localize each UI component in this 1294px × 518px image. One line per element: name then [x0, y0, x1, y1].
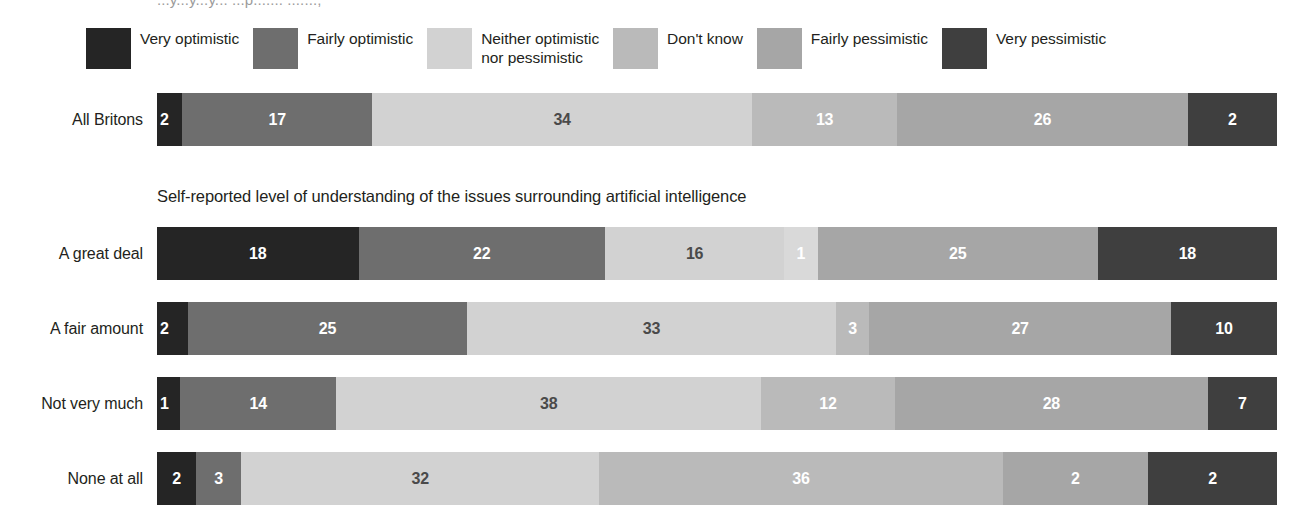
legend-item-neither[interactable]: Neither optimistic nor pessimistic: [427, 28, 599, 69]
segment-value: 2: [1071, 470, 1080, 488]
segment-value: 33: [643, 320, 660, 338]
bar-segment-very-pessimistic[interactable]: 10: [1171, 302, 1277, 355]
segment-value: 2: [1208, 470, 1217, 488]
bar-segment-fairly-pessimistic[interactable]: 28: [895, 377, 1208, 430]
clipped-header-text: ...y...y...y... ...p....... .......,: [157, 0, 321, 8]
legend-label-very_pessimistic: Very pessimistic: [996, 28, 1106, 48]
bar-segment-fairly-pessimistic[interactable]: 26: [897, 93, 1187, 146]
segment-value: 18: [1179, 245, 1196, 263]
segment-value: 1: [160, 395, 169, 413]
bar-segment-neither[interactable]: 16: [605, 227, 784, 280]
segment-value: 2: [1228, 111, 1237, 129]
stacked-bar-chart: ...y...y...y... ...p....... ......., Ver…: [0, 0, 1294, 518]
bar-segment-very-pessimistic[interactable]: 18: [1098, 227, 1277, 280]
segment-value: 18: [249, 245, 266, 263]
legend-item-dont_know[interactable]: Don't know: [613, 28, 743, 69]
segment-value: 2: [172, 470, 181, 488]
legend-label-very_optimistic: Very optimistic: [140, 28, 239, 48]
bar-segment-fairly-optimistic[interactable]: 22: [359, 227, 605, 280]
segment-value: 2: [160, 111, 169, 129]
row-label: A fair amount: [0, 302, 143, 355]
bar-segment-very-optimistic[interactable]: 2: [157, 93, 182, 146]
bar-segment-dont-know[interactable]: 12: [761, 377, 895, 430]
segment-value: 38: [540, 395, 557, 413]
chart-legend: Very optimisticFairly optimisticNeither …: [86, 28, 1286, 69]
legend-item-very_optimistic[interactable]: Very optimistic: [86, 28, 239, 69]
bar-segment-very-optimistic[interactable]: 1: [157, 377, 180, 430]
legend-label-dont_know: Don't know: [667, 28, 743, 48]
segment-value: 14: [250, 395, 267, 413]
stacked-bar: 2253332710: [157, 302, 1277, 355]
bar-segment-fairly-optimistic[interactable]: 25: [188, 302, 467, 355]
chart-row: A great deal18221612518: [0, 227, 1294, 280]
row-label: A great deal: [0, 227, 143, 280]
segment-value: 28: [1043, 395, 1060, 413]
segment-value: 34: [553, 111, 570, 129]
row-label: All Britons: [0, 93, 143, 146]
bar-segment-neither[interactable]: 32: [241, 452, 599, 505]
bar-segment-dont-know[interactable]: 1: [784, 227, 818, 280]
legend-swatch-very_optimistic: [86, 28, 131, 69]
segment-value: 32: [411, 470, 428, 488]
stacked-bar: 2173413262: [157, 93, 1277, 146]
segment-value: 2: [160, 320, 169, 338]
bar-segment-dont-know[interactable]: 3: [836, 302, 870, 355]
segment-value: 3: [214, 470, 223, 488]
legend-label-neither: Neither optimistic nor pessimistic: [481, 28, 599, 67]
legend-item-fairly_optimistic[interactable]: Fairly optimistic: [253, 28, 413, 69]
bar-segment-very-pessimistic[interactable]: 7: [1208, 377, 1277, 430]
chart-row: A fair amount2253332710: [0, 302, 1294, 355]
segment-value: 3: [848, 320, 857, 338]
bar-segment-neither[interactable]: 38: [336, 377, 760, 430]
bar-segment-fairly-optimistic[interactable]: 14: [180, 377, 336, 430]
segment-value: 10: [1215, 320, 1232, 338]
segment-value: 25: [949, 245, 966, 263]
row-label: None at all: [0, 452, 143, 505]
segment-value: 36: [792, 470, 809, 488]
segment-value: 17: [269, 111, 286, 129]
segment-value: 22: [473, 245, 490, 263]
bar-segment-fairly-pessimistic[interactable]: 2: [1003, 452, 1149, 505]
segment-value: 16: [686, 245, 703, 263]
stacked-bar: 23323622: [157, 452, 1277, 505]
legend-item-fairly_pessimistic[interactable]: Fairly pessimistic: [757, 28, 928, 69]
segment-value: 7: [1238, 395, 1247, 413]
bar-segment-fairly-pessimistic[interactable]: 27: [869, 302, 1171, 355]
chart-row: None at all23323622: [0, 452, 1294, 505]
segment-value: 25: [319, 320, 336, 338]
legend-swatch-dont_know: [613, 28, 658, 69]
chart-row: All Britons2173413262: [0, 93, 1294, 146]
legend-swatch-neither: [427, 28, 472, 69]
bar-segment-neither[interactable]: 34: [372, 93, 752, 146]
bar-segment-fairly-optimistic[interactable]: 3: [196, 452, 241, 505]
bar-segment-very-optimistic[interactable]: 18: [157, 227, 359, 280]
bar-segment-very-pessimistic[interactable]: 2: [1148, 452, 1277, 505]
legend-label-fairly_pessimistic: Fairly pessimistic: [811, 28, 928, 48]
legend-swatch-fairly_optimistic: [253, 28, 298, 69]
legend-swatch-very_pessimistic: [942, 28, 987, 69]
bar-segment-very-optimistic[interactable]: 2: [157, 302, 188, 355]
segment-value: 13: [816, 111, 833, 129]
legend-swatch-fairly_pessimistic: [757, 28, 802, 69]
bar-segment-dont-know[interactable]: 36: [599, 452, 1002, 505]
bar-segment-very-pessimistic[interactable]: 2: [1188, 93, 1277, 146]
legend-label-fairly_optimistic: Fairly optimistic: [307, 28, 413, 48]
bar-segment-fairly-pessimistic[interactable]: 25: [818, 227, 1098, 280]
row-label: Not very much: [0, 377, 143, 430]
stacked-bar: 1143812287: [157, 377, 1277, 430]
bar-segment-fairly-optimistic[interactable]: 17: [182, 93, 372, 146]
bar-segment-dont-know[interactable]: 13: [752, 93, 897, 146]
bar-segment-neither[interactable]: 33: [467, 302, 836, 355]
segment-value: 12: [819, 395, 836, 413]
chart-subtitle: Self-reported level of understanding of …: [157, 187, 746, 206]
chart-row: Not very much1143812287: [0, 377, 1294, 430]
legend-item-very_pessimistic[interactable]: Very pessimistic: [942, 28, 1106, 69]
stacked-bar: 18221612518: [157, 227, 1277, 280]
bar-segment-very-optimistic[interactable]: 2: [157, 452, 196, 505]
segment-value: 1: [797, 245, 806, 263]
segment-value: 27: [1011, 320, 1028, 338]
segment-value: 26: [1034, 111, 1051, 129]
